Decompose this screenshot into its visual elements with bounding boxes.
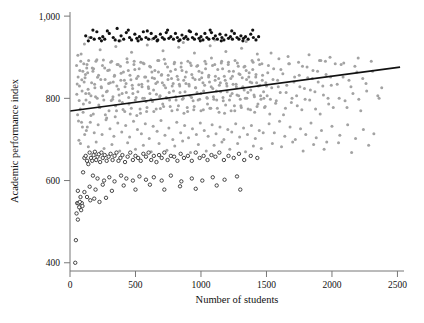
data-point	[256, 105, 259, 108]
data-point	[227, 63, 230, 66]
data-point	[125, 57, 128, 60]
data-point	[131, 87, 134, 90]
data-point	[195, 33, 198, 36]
data-point	[153, 69, 156, 72]
data-point	[256, 52, 259, 55]
data-point	[329, 56, 332, 59]
data-point	[317, 80, 320, 83]
data-point	[148, 137, 151, 140]
data-point	[146, 43, 149, 46]
data-point	[117, 63, 120, 66]
data-point	[191, 127, 194, 130]
data-point	[89, 121, 92, 124]
data-point	[126, 155, 129, 158]
data-point	[220, 60, 223, 63]
data-point	[346, 123, 349, 126]
data-point	[172, 82, 175, 85]
data-point	[156, 130, 159, 133]
data-point	[78, 99, 81, 102]
data-point	[78, 200, 81, 203]
data-point	[309, 89, 312, 92]
data-point	[224, 33, 227, 36]
data-point	[190, 73, 193, 76]
data-point	[192, 99, 195, 102]
data-point	[137, 83, 140, 86]
data-point	[114, 38, 117, 41]
data-point	[303, 87, 306, 90]
data-point	[207, 135, 210, 138]
data-point	[227, 154, 230, 157]
data-point	[105, 90, 108, 93]
data-point	[272, 78, 275, 81]
data-point	[87, 59, 90, 62]
data-point	[134, 98, 137, 101]
data-point	[320, 129, 323, 132]
data-point	[312, 143, 315, 146]
data-point	[113, 154, 116, 157]
data-point	[337, 141, 340, 144]
data-point	[194, 86, 197, 89]
data-point	[164, 86, 167, 89]
data-point	[105, 118, 108, 121]
data-point	[84, 73, 87, 76]
data-point	[316, 70, 319, 73]
data-point	[131, 158, 134, 161]
data-point	[187, 136, 190, 139]
data-point	[146, 106, 149, 109]
data-point	[325, 140, 328, 143]
data-point	[338, 97, 341, 100]
data-point	[262, 131, 265, 134]
data-point	[260, 147, 263, 150]
data-point	[240, 106, 243, 109]
data-point	[144, 155, 147, 158]
data-point	[218, 111, 221, 114]
data-point	[247, 75, 250, 78]
data-point	[287, 55, 290, 58]
data-point	[223, 112, 226, 115]
data-point	[266, 71, 269, 74]
y-tick-label: 400	[46, 258, 61, 268]
data-point	[177, 78, 180, 81]
data-point	[298, 74, 301, 77]
data-point	[270, 86, 273, 89]
data-point	[137, 39, 140, 42]
data-point	[129, 78, 132, 81]
data-point	[241, 76, 244, 79]
data-point	[100, 151, 103, 154]
data-point	[229, 94, 232, 97]
data-point	[95, 140, 98, 143]
data-point	[208, 80, 211, 83]
data-point	[134, 148, 137, 151]
data-point	[243, 89, 246, 92]
data-point	[96, 97, 99, 100]
data-point	[252, 145, 255, 148]
data-point	[308, 98, 311, 101]
data-point	[354, 137, 357, 140]
data-point	[201, 81, 204, 84]
data-point	[91, 159, 94, 162]
data-point	[235, 175, 238, 178]
data-point	[275, 99, 278, 102]
data-point	[137, 75, 140, 78]
data-point	[152, 154, 155, 157]
data-point	[213, 144, 216, 147]
data-point	[190, 96, 193, 99]
x-axis-title: Number of students	[196, 294, 279, 305]
data-point	[189, 61, 192, 64]
data-point	[233, 104, 236, 107]
data-point	[242, 126, 245, 129]
data-point	[76, 54, 79, 57]
data-point	[130, 107, 133, 110]
data-point	[351, 92, 354, 95]
data-point	[109, 81, 112, 84]
data-point	[86, 63, 89, 66]
data-point	[258, 63, 261, 66]
data-point	[94, 60, 97, 63]
data-point	[253, 111, 256, 114]
data-point	[93, 131, 96, 134]
data-point	[290, 101, 293, 104]
data-point	[131, 84, 134, 87]
data-point	[198, 78, 201, 81]
data-point	[243, 158, 246, 161]
data-point	[237, 94, 240, 97]
